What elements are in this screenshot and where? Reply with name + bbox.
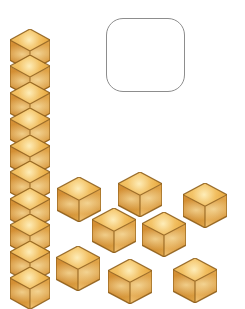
answer-box[interactable] bbox=[106, 18, 185, 92]
unit-cube[interactable] bbox=[108, 259, 152, 304]
unit-cube[interactable] bbox=[142, 212, 186, 257]
unit-cube[interactable] bbox=[173, 258, 217, 303]
unit-cube[interactable] bbox=[183, 183, 227, 228]
ten-rod[interactable] bbox=[10, 29, 50, 307]
rod-unit-cube bbox=[10, 267, 50, 309]
unit-cube[interactable] bbox=[56, 246, 100, 291]
